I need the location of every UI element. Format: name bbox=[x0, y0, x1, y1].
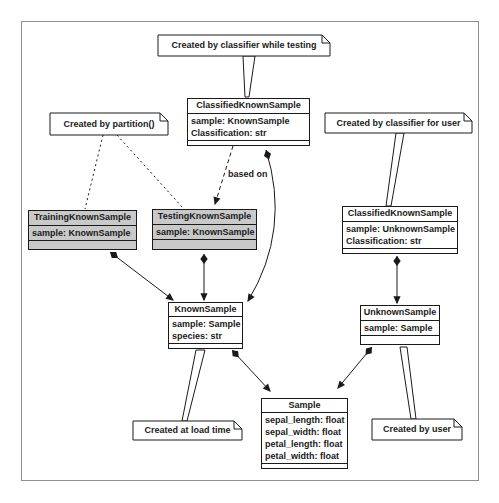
attribute: sample: KnownSample bbox=[191, 115, 309, 127]
attribute: sample: Sample bbox=[364, 322, 439, 334]
class-testing-known-sample: TestingKnownSample sample: KnownSample bbox=[152, 209, 257, 250]
note-load-time: Created at load time bbox=[133, 421, 242, 440]
note-classifier-user: Created by classifier for user bbox=[325, 113, 472, 133]
class-classified-known-sample-testing: ClassifiedKnownSample sample: KnownSampl… bbox=[187, 98, 310, 146]
class-training-known-sample: TrainingKnownSample sample: KnownSample bbox=[28, 210, 137, 250]
class-title: Sample bbox=[262, 399, 347, 413]
edge-knownsample-to-sample bbox=[232, 350, 270, 391]
note-partition: Created by partition() bbox=[50, 113, 168, 135]
attribute: sample: UnknownSample bbox=[346, 223, 457, 235]
class-operations-empty bbox=[343, 249, 457, 253]
class-title: KnownSample bbox=[169, 303, 242, 317]
class-title: TrainingKnownSample bbox=[29, 211, 136, 226]
class-operations-empty bbox=[153, 240, 256, 249]
class-attributes: sample: Sample species: str bbox=[169, 317, 242, 344]
attribute: Classification: str bbox=[191, 127, 309, 139]
class-operations-empty bbox=[188, 141, 309, 145]
anchor-note-load-time bbox=[182, 350, 205, 421]
class-sample: Sample sepal_length: float sepal_width: … bbox=[261, 398, 348, 469]
attribute: sample: Sample bbox=[172, 318, 242, 330]
anchor-note-testing bbox=[243, 56, 255, 97]
class-operations-empty bbox=[361, 336, 439, 344]
anchor-partition-training bbox=[85, 135, 103, 209]
class-title: TestingKnownSample bbox=[153, 210, 256, 225]
class-title: ClassifiedKnownSample bbox=[188, 99, 309, 114]
edge-label-based-on: based on bbox=[228, 169, 268, 179]
class-title: UnknownSample bbox=[361, 306, 439, 321]
edge-unknownsample-to-sample bbox=[338, 347, 372, 388]
class-known-sample: KnownSample sample: Sample species: str bbox=[168, 302, 243, 349]
class-operations-empty bbox=[29, 241, 136, 249]
class-attributes: sample: KnownSample Classification: str bbox=[188, 114, 309, 141]
class-attributes: sample: UnknownSample Classification: st… bbox=[343, 222, 457, 249]
uml-diagram: ClassifiedKnownSample sample: KnownSampl… bbox=[0, 0, 499, 503]
anchor-note-user-classifier bbox=[386, 133, 404, 206]
attribute: petal_length: float bbox=[265, 438, 347, 450]
class-attributes: sepal_length: float sepal_width: float p… bbox=[262, 413, 347, 464]
class-attributes: sample: KnownSample bbox=[29, 226, 136, 241]
edge-training-to-knownsample bbox=[110, 252, 173, 300]
attribute: sepal_width: float bbox=[265, 426, 347, 438]
anchor-partition-testing bbox=[117, 135, 183, 208]
class-classified-known-sample-user: ClassifiedKnownSample sample: UnknownSam… bbox=[342, 206, 458, 254]
attribute: sample: KnownSample bbox=[156, 226, 256, 238]
attribute: sepal_length: float bbox=[265, 414, 347, 426]
class-operations-empty bbox=[169, 344, 242, 348]
class-operations-empty bbox=[262, 464, 347, 468]
attribute: Classification: str bbox=[346, 235, 457, 247]
note-classifier-testing: Created by classifier while testing bbox=[158, 35, 330, 56]
class-attributes: sample: Sample bbox=[361, 321, 439, 336]
class-title: ClassifiedKnownSample bbox=[343, 207, 457, 222]
anchor-note-user bbox=[400, 347, 416, 419]
attribute: species: str bbox=[172, 330, 242, 342]
class-attributes: sample: KnownSample bbox=[153, 225, 256, 240]
attribute: sample: KnownSample bbox=[32, 227, 136, 239]
note-user: Created by user bbox=[372, 419, 462, 440]
attribute: petal_width: float bbox=[265, 450, 347, 462]
class-unknown-sample: UnknownSample sample: Sample bbox=[360, 305, 440, 345]
